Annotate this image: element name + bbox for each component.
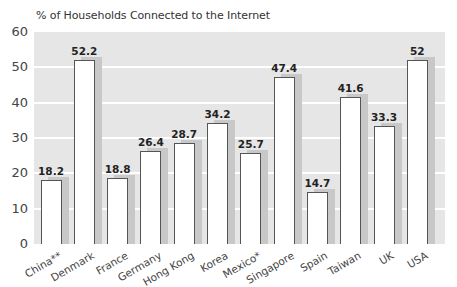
bar-value-label: 14.7	[297, 177, 337, 189]
bar	[407, 60, 428, 244]
bar-value-label: 34.2	[198, 108, 238, 120]
bar	[240, 153, 261, 244]
bar-value-label: 41.6	[331, 82, 371, 94]
bar	[107, 178, 128, 244]
bar	[41, 180, 62, 244]
x-tick-label: UK	[377, 249, 396, 267]
bar	[140, 151, 161, 244]
bar-value-label: 52.2	[64, 45, 104, 57]
y-tick-label: 0	[0, 237, 28, 251]
bar	[74, 60, 95, 244]
x-tick-label: USA	[404, 249, 429, 270]
bar	[207, 123, 228, 244]
bar-value-label: 18.2	[31, 165, 71, 177]
bar-value-label: 28.7	[164, 128, 204, 140]
bar	[374, 126, 395, 244]
bar-value-label: 52	[397, 45, 437, 57]
x-tick-label: Taiwan	[326, 249, 363, 277]
bar-value-label: 33.3	[364, 111, 404, 123]
x-tick-label: Spain	[298, 249, 329, 274]
chart-title: % of Households Connected to the Interne…	[36, 9, 270, 22]
bar	[307, 192, 328, 244]
y-tick-label: 20	[0, 166, 28, 180]
bar-value-label: 18.8	[98, 163, 138, 175]
y-tick-label: 30	[0, 131, 28, 145]
y-tick-label: 10	[0, 202, 28, 216]
y-tick-label: 50	[0, 60, 28, 74]
y-tick-label: 40	[0, 96, 28, 110]
bar	[340, 97, 361, 244]
y-tick-label: 60	[0, 25, 28, 39]
bar-value-label: 47.4	[264, 62, 304, 74]
bar	[274, 77, 295, 244]
bar-value-label: 25.7	[231, 138, 271, 150]
bar	[174, 143, 195, 244]
